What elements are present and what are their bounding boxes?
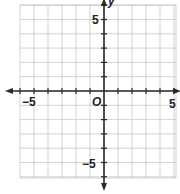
y-axis-bottom-arrow-icon — [101, 183, 107, 191]
y-axis-label: y — [107, 0, 116, 8]
origin-label: O — [92, 95, 102, 109]
tick-label-x-pos5: 5 — [169, 97, 176, 111]
coordinate-plane: y −5 5 5 −5 O — [0, 0, 180, 194]
tick-label-x-neg5: −5 — [22, 95, 36, 109]
tick-label-y-pos5: 5 — [92, 13, 99, 27]
x-axis-left-arrow-icon — [5, 88, 13, 94]
tick-label-y-neg5: −5 — [82, 157, 96, 171]
